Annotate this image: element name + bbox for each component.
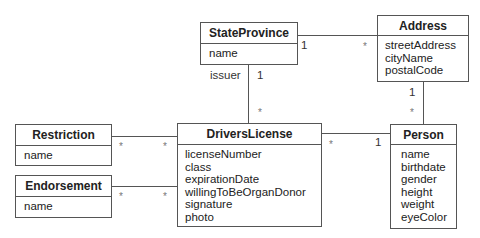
attribute: signature xyxy=(185,198,321,211)
multiplicity-label: * xyxy=(363,41,367,53)
class-title: Person xyxy=(391,125,456,145)
association-restriction-driverslicense xyxy=(111,136,177,137)
class-title: Restriction xyxy=(16,125,111,146)
attribute: name xyxy=(24,149,111,162)
multiplicity-label: * xyxy=(329,139,333,151)
attribute: name xyxy=(209,47,297,60)
attribute: streetAddress xyxy=(385,39,468,52)
class-title: Endorsement xyxy=(16,176,111,197)
association-stateprovince-driverslicense xyxy=(248,64,249,123)
attribute: height xyxy=(401,186,456,199)
multiplicity-label: 1 xyxy=(375,136,381,148)
multiplicity-label: * xyxy=(163,141,167,153)
attribute: photo xyxy=(185,211,321,224)
attribute: willingToBeOrganDonor xyxy=(185,186,321,199)
class-attributes: streetAddress cityName postalCode xyxy=(378,36,468,77)
class-stateprovince: StateProvince name xyxy=(200,22,298,65)
class-address: Address streetAddress cityName postalCod… xyxy=(377,15,469,82)
multiplicity-label: * xyxy=(163,191,167,203)
association-stateprovince-address xyxy=(297,35,377,36)
role-label: issuer xyxy=(210,69,241,81)
attribute: weight xyxy=(401,198,456,211)
attribute: eyeColor xyxy=(401,211,456,224)
multiplicity-label: * xyxy=(119,191,123,203)
attribute: postalCode xyxy=(385,64,468,77)
multiplicity-label: 1 xyxy=(257,69,263,81)
association-address-person xyxy=(423,81,424,124)
association-endorsement-driverslicense xyxy=(111,186,177,187)
association-driverslicense-person xyxy=(321,133,390,134)
class-title: DriversLicense xyxy=(178,124,321,145)
class-attributes: name xyxy=(201,44,297,60)
class-title: Address xyxy=(378,16,468,36)
attribute: name xyxy=(401,148,456,161)
multiplicity-label: 1 xyxy=(301,39,307,51)
attribute: expirationDate xyxy=(185,173,321,186)
class-restriction: Restriction name xyxy=(15,124,112,166)
attribute: cityName xyxy=(385,52,468,65)
multiplicity-label: * xyxy=(119,141,123,153)
attribute: gender xyxy=(401,173,456,186)
class-person: Person name birthdate gender height weig… xyxy=(390,124,457,229)
class-driverslicense: DriversLicense licenseNumber class expir… xyxy=(177,123,322,227)
attribute: name xyxy=(24,200,111,213)
attribute: class xyxy=(185,161,321,174)
attribute: birthdate xyxy=(401,161,456,174)
multiplicity-label: * xyxy=(258,107,262,119)
attribute: licenseNumber xyxy=(185,148,321,161)
class-endorsement: Endorsement name xyxy=(15,175,112,218)
class-attributes: name birthdate gender height weight eyeC… xyxy=(391,145,456,223)
class-title: StateProvince xyxy=(201,23,297,44)
multiplicity-label: 1 xyxy=(409,86,415,98)
class-attributes: name xyxy=(16,146,111,162)
class-attributes: name xyxy=(16,197,111,213)
multiplicity-label: * xyxy=(410,107,414,119)
class-attributes: licenseNumber class expirationDate willi… xyxy=(178,145,321,223)
